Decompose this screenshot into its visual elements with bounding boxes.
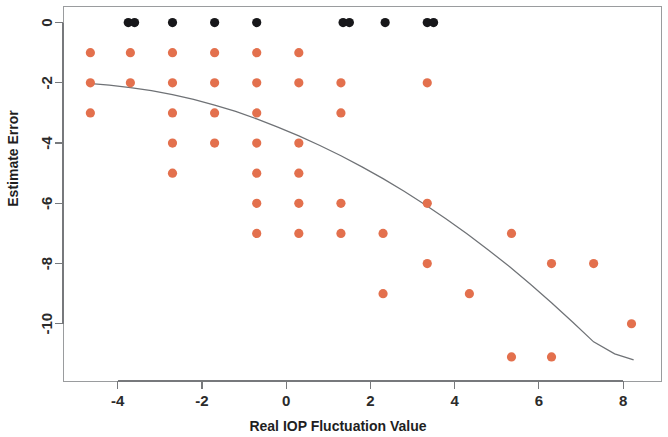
data-point — [252, 229, 261, 238]
y-tick-label: -10 — [39, 313, 56, 335]
data-point — [423, 259, 432, 268]
data-point — [168, 138, 177, 147]
data-point — [381, 18, 390, 27]
scatter-plot-figure: 0-2-4-6-8-10 -4-202468 Real IOP Fluctuat… — [0, 0, 668, 437]
plot-frame — [63, 6, 661, 381]
x-tick-label: 2 — [366, 392, 374, 409]
x-axis-title: Real IOP Fluctuation Value — [249, 418, 426, 434]
data-point — [168, 108, 177, 117]
x-tick-label: 0 — [282, 392, 290, 409]
y-axis-title: Estimate Error — [5, 110, 21, 207]
data-point — [86, 48, 95, 57]
data-point — [168, 169, 177, 178]
data-point — [210, 48, 219, 57]
axis-titles: Real IOP Fluctuation ValueEstimate Error — [5, 110, 427, 434]
data-point — [336, 108, 345, 117]
data-point — [294, 229, 303, 238]
data-point — [210, 108, 219, 117]
fit-curve — [88, 83, 633, 360]
data-point — [345, 18, 354, 27]
x-tick-label: -4 — [111, 392, 125, 409]
data-point — [130, 18, 139, 27]
data-point — [507, 229, 516, 238]
data-point — [86, 108, 95, 117]
data-point — [252, 108, 261, 117]
y-tick-label: -2 — [39, 76, 56, 89]
data-point — [589, 259, 598, 268]
data-point — [252, 48, 261, 57]
data-point — [168, 78, 177, 87]
data-point — [627, 319, 636, 328]
data-point — [294, 199, 303, 208]
y-tick-label: -8 — [39, 257, 56, 270]
x-tick-label: 6 — [535, 392, 543, 409]
loess-fit-line — [88, 83, 633, 360]
data-point — [465, 289, 474, 298]
y-tick-label: -4 — [39, 136, 56, 150]
data-point — [168, 18, 177, 27]
data-point — [252, 138, 261, 147]
x-axis: -4-202468 — [111, 381, 627, 409]
data-point — [547, 352, 556, 361]
plot-border — [63, 6, 661, 381]
y-tick-label: 0 — [39, 18, 56, 26]
data-point — [336, 199, 345, 208]
data-point — [507, 352, 516, 361]
data-point — [547, 259, 556, 268]
data-point — [294, 169, 303, 178]
data-point — [168, 48, 177, 57]
x-tick-label: -2 — [195, 392, 208, 409]
data-point — [210, 138, 219, 147]
data-point — [126, 78, 135, 87]
data-points — [86, 18, 636, 362]
chart-canvas: 0-2-4-6-8-10 -4-202468 Real IOP Fluctuat… — [0, 0, 668, 437]
data-point — [252, 199, 261, 208]
data-point — [429, 18, 438, 27]
data-point — [126, 48, 135, 57]
data-point — [423, 78, 432, 87]
data-point — [336, 229, 345, 238]
y-axis: 0-2-4-6-8-10 — [39, 18, 64, 334]
x-tick-label: 4 — [450, 392, 459, 409]
data-point — [423, 199, 432, 208]
data-point — [210, 18, 219, 27]
data-point — [252, 169, 261, 178]
data-point — [252, 78, 261, 87]
data-point — [252, 18, 261, 27]
data-point — [378, 229, 387, 238]
data-point — [294, 78, 303, 87]
data-point — [378, 289, 387, 298]
data-point — [86, 78, 95, 87]
data-point — [336, 78, 345, 87]
data-point — [294, 48, 303, 57]
y-tick-label: -6 — [39, 197, 56, 210]
data-point — [294, 138, 303, 147]
data-point — [210, 78, 219, 87]
x-tick-label: 8 — [619, 392, 627, 409]
